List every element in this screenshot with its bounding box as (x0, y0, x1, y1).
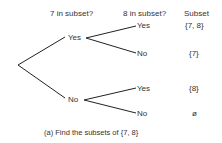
subset-8: {8} (189, 84, 199, 93)
header-8-in-subset: 8 in subset? (123, 9, 166, 18)
header-7-in-subset: 7 in subset? (50, 9, 93, 18)
edge-root-no (18, 65, 65, 98)
edge-yes-yes (86, 26, 136, 38)
edge-yes-no (86, 38, 136, 53)
edge-root-yes (18, 37, 65, 65)
node-7-yes: Yes (68, 33, 81, 42)
node-7-no: No (68, 95, 78, 104)
node-8-yes-after-no: Yes (137, 84, 150, 93)
node-8-no-after-no: No (137, 109, 147, 118)
node-8-no-after-yes: No (137, 49, 147, 58)
subset-7-8: {7, 8} (185, 21, 204, 30)
header-subset: Subset (184, 9, 209, 18)
subset-empty: ø (192, 109, 197, 118)
edge-no-yes (84, 88, 136, 100)
subset-7: {7} (189, 49, 199, 58)
node-8-yes-after-yes: Yes (137, 21, 150, 30)
caption: (a) Find the subsets of {7, 8} (44, 128, 138, 137)
edge-no-no (84, 100, 136, 113)
